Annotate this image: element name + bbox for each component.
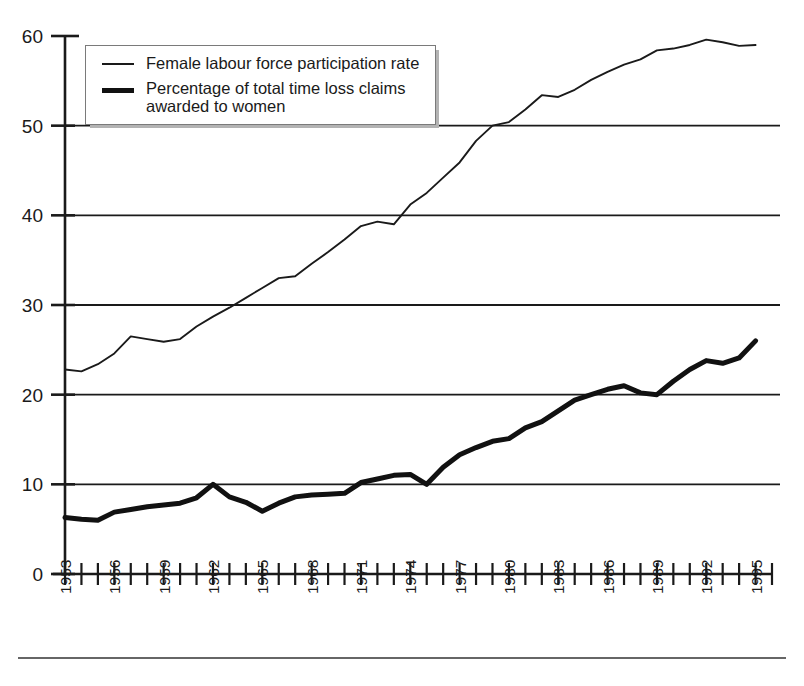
x-tick-label-1959: 1959 xyxy=(156,560,173,594)
x-tick-label-1971: 1971 xyxy=(353,560,370,594)
y-tick-label-10: 10 xyxy=(22,474,43,495)
gridlines xyxy=(65,126,780,485)
legend: Female labour force participation rate P… xyxy=(85,45,436,125)
x-tick-label-1980: 1980 xyxy=(501,559,518,594)
x-tick-label-1992: 1992 xyxy=(698,560,715,594)
x-tick-label-1953: 1953 xyxy=(57,560,74,594)
legend-label-1: Percentage of total time loss claims awa… xyxy=(146,79,406,116)
x-tick-label-1983: 1983 xyxy=(550,560,567,594)
x-tick-label-1974: 1974 xyxy=(402,559,419,594)
legend-swatch-thick-line-icon xyxy=(102,88,134,93)
y-tick-label-50: 50 xyxy=(22,116,43,137)
figure-container: 0102030405060 19531956195919621965196819… xyxy=(0,0,804,686)
y-tick-label-0: 0 xyxy=(32,564,43,585)
x-tick-label-1956: 1956 xyxy=(106,560,123,594)
y-tick-labels: 0102030405060 xyxy=(22,26,43,585)
legend-item-0: Female labour force participation rate xyxy=(102,54,419,72)
y-tick-label-30: 30 xyxy=(22,295,43,316)
x-tick-label-1989: 1989 xyxy=(649,560,666,594)
x-tick-label-1962: 1962 xyxy=(205,560,222,594)
x-tick-label-1986: 1986 xyxy=(600,560,617,594)
x-tick-label-1968: 1968 xyxy=(304,560,321,594)
y-tick-label-20: 20 xyxy=(22,385,43,406)
y-axis xyxy=(51,36,79,576)
x-tick-label-1977: 1977 xyxy=(452,560,469,594)
legend-swatch-thin-line-icon xyxy=(102,63,134,65)
x-tick-label-1965: 1965 xyxy=(254,560,271,594)
y-tick-label-60: 60 xyxy=(22,26,43,47)
x-tick-labels: 1953195619591962196519681971197419771980… xyxy=(57,559,765,594)
footer-divider xyxy=(18,657,786,659)
legend-label-0: Female labour force participation rate xyxy=(146,54,419,72)
x-tick-label-1995: 1995 xyxy=(748,560,765,594)
series-line-1 xyxy=(65,341,756,520)
legend-item-1: Percentage of total time loss claims awa… xyxy=(102,79,406,116)
y-tick-label-40: 40 xyxy=(22,205,43,226)
